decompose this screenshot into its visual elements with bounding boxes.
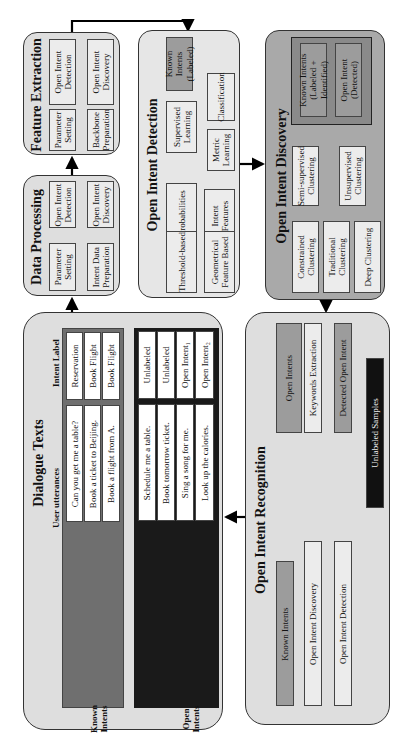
open-intent-detection-title: Open Intent Detection (145, 99, 161, 232)
oir-open-intent-detection: Open Intent Detection (334, 541, 352, 706)
oir-open-intents: Open Intents (276, 323, 302, 433)
dialogue-texts-panel: Dialogue Texts User utterances Intent La… (23, 312, 223, 730)
oid-geometrical-feature-based: Geometrical Feature Based (204, 231, 235, 293)
oid-known-intents: Known Intents (Labeled) (166, 37, 193, 91)
dialogue-texts-title: Dialogue Texts (31, 419, 47, 507)
data-processing-panel: Data Processing Open Intent Detection Op… (23, 175, 120, 296)
open-intent-discovery-title: Open Intent Discovery (274, 108, 290, 243)
oidisc-unsupervised: Unsupervised Clustering (339, 146, 366, 206)
col-header-intent-label: Intent Label (51, 339, 61, 387)
dp-parameter-setting: Parameter Setting (49, 243, 76, 291)
known-intents-brace-label: Known Intents (89, 704, 110, 734)
open-intent-discovery-panel: Open Intent Discovery Known Intents (Lab… (265, 30, 385, 300)
oidisc-deep: Deep Clustering (354, 221, 381, 293)
open-intents-table: Unlabeled Unlabeled Open Intent₁ Open In… (134, 328, 219, 708)
oir-open-intent-discovery: Open Intent Discovery (304, 541, 322, 706)
fe-open-intent-discovery: Open Intent Discovery (87, 39, 114, 105)
dp-open-intent-detection: Open Intent Detection (49, 181, 76, 228)
fe-open-intent-detection: Open Intent Detection (49, 39, 76, 105)
open-intents-brace-label: Open Intents (181, 704, 202, 734)
open-intent-recognition-panel: Open Intent Recognition Open Intents Key… (245, 312, 390, 725)
feature-extraction-title: Feature Extraction (29, 38, 45, 152)
oidisc-semi-supervised: Semi-supervised Clustering (292, 146, 319, 206)
fe-backbone-preparation: Backbone Preparation (87, 109, 114, 151)
known-intents-table: Reservation Book Flight Book Flight Can … (62, 328, 124, 708)
oir-detected-open-intent: Detected Open Intent (334, 323, 352, 433)
oidisc-constrained: Constrained Clustering (292, 221, 319, 293)
oir-known-intents: Known Intents (276, 561, 294, 706)
oid-supervised-learning: Supervised Learning (166, 101, 197, 153)
data-processing-title: Data Processing (29, 189, 45, 285)
oir-keywords-extraction: Keywords Extraction (304, 323, 322, 433)
oid-classification: Classification (207, 73, 235, 121)
open-intent-detection-panel: Open Intent Detection Known Intents (Lab… (138, 30, 240, 298)
feature-extraction-panel: Feature Extraction Open Intent Detection… (23, 32, 120, 155)
open-intent-recognition-title: Open Intent Recognition (253, 446, 269, 594)
oidisc-open-intent: Open Intent (Detected) (335, 43, 362, 117)
col-header-utterances: User utterances (51, 468, 61, 528)
oid-threshold-based: Threshold-based (166, 231, 197, 293)
oir-unlabeled-samples: Unlabeled Samples (366, 358, 384, 508)
dp-open-intent-discovery: Open Intent Discovery (87, 181, 114, 228)
oid-metric-learning: Metric Learning (207, 129, 235, 171)
dp-intent-data-preparation: Intent Data Preparation (87, 243, 114, 291)
oidisc-traditional: Traditional Clustering (323, 221, 350, 293)
fe-parameter-setting: Parameter Setting (49, 109, 76, 151)
oidisc-known-intents: Known Intents (Labeled + Identified) (300, 43, 327, 117)
oidisc-input-group: Known Intents (Labeled + Identified) Ope… (291, 37, 372, 125)
